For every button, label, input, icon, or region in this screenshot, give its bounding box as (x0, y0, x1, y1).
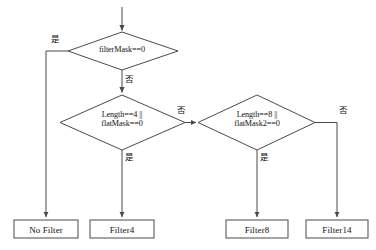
flowchart-diagram: filterMask==0 Length==4 || flatMask==0 L… (0, 0, 376, 250)
decision-node-length8 (198, 95, 315, 150)
edge-label-d2-yes: 是 (125, 150, 134, 162)
edge-label-d3-yes: 是 (260, 150, 269, 162)
edge-d1-yes (46, 51, 68, 217)
terminal-node-filter4 (90, 220, 154, 238)
decision-node-length4 (60, 95, 185, 150)
edge-label-d1-no: 否 (125, 72, 134, 84)
terminal-node-filter8 (226, 220, 288, 238)
edge-label-d1-yes: 是 (51, 32, 60, 44)
decision-node-filtermask (68, 32, 178, 70)
terminal-node-no-filter (14, 220, 78, 238)
edge-d3-no (315, 123, 337, 218)
edge-label-d3-no: 否 (339, 103, 348, 115)
terminal-node-filter14 (306, 220, 368, 238)
edge-label-d2-no: 否 (177, 103, 186, 115)
